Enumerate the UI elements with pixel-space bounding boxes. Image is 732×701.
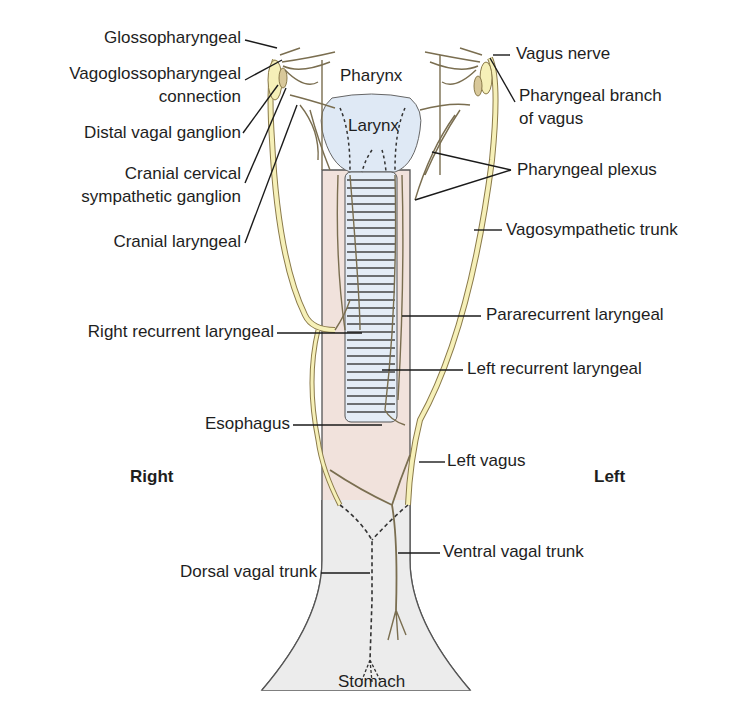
cranial-laryngeal-label: Cranial laryngeal [113,232,241,252]
right-recurrent-laryngeal-label: Right recurrent laryngeal [88,322,274,342]
left-vagus-label: Left vagus [447,451,525,471]
cranial-cervical-label-line2: sympathetic ganglion [81,187,241,207]
esophagus-label: Esophagus [205,414,290,434]
pharynx-label: Pharynx [340,66,402,86]
pharyngeal-branch-label: Pharyngeal branch [519,86,662,106]
vagus-nerve-label: Vagus nerve [516,44,610,64]
left-recurrent-laryngeal-label: Left recurrent laryngeal [467,359,642,379]
ventral-vagal-trunk-label: Ventral vagal trunk [443,542,584,562]
stomach-region [262,500,470,690]
vagosympathetic-trunk-label: Vagosympathetic trunk [506,220,678,240]
side-right-label: Right [130,467,173,487]
side-left-label: Left [594,467,625,487]
pharyngeal-branch-label-line2: of vagus [519,109,583,129]
cranial-cervical-label: Cranial cervical [125,164,241,184]
vagoglossopharyngeal-label: Vagoglossopharyngeal [69,64,241,84]
vagoglossopharyngeal-label-line2: connection [159,87,241,107]
stomach-label: Stomach [338,672,405,692]
dorsal-vagal-trunk-label: Dorsal vagal trunk [180,562,317,582]
left-cervical-ganglion-shape [474,76,482,96]
larynx-label: Larynx [348,116,399,136]
glossopharyngeal-label: Glossopharyngeal [104,28,241,48]
distal-vagal-ganglion-label: Distal vagal ganglion [84,123,241,143]
pararecurrent-laryngeal-label: Pararecurrent laryngeal [486,305,664,325]
pharyngeal-plexus-label: Pharyngeal plexus [517,160,657,180]
